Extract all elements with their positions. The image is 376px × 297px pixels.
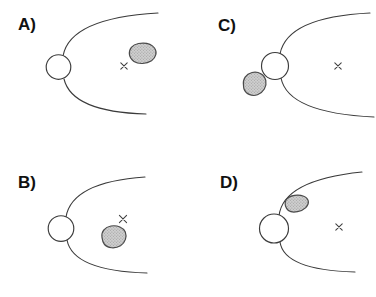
panel-a: A) [18, 13, 158, 114]
boundary-upper-curve [280, 13, 370, 54]
panel-label-b: B) [18, 173, 36, 192]
diagram-svg: A)B)C)D) [0, 0, 376, 297]
shaded-blob [102, 226, 126, 248]
shaded-blob [285, 195, 308, 212]
boundary-lower-curve [64, 79, 146, 114]
panel-d: D) [220, 172, 362, 272]
panel-c: C) [218, 13, 374, 117]
shaded-blob [129, 43, 156, 63]
x-marker [336, 224, 342, 230]
boundary-lower-curve [281, 78, 374, 117]
panel-b: B) [18, 173, 147, 273]
shaded-blob [243, 72, 266, 95]
boundary-lower-curve [280, 242, 355, 272]
panel-label-a: A) [18, 15, 36, 34]
x-marker [335, 63, 341, 69]
planet-circle [262, 53, 289, 80]
planet-circle [46, 55, 71, 80]
panel-label-c: C) [218, 16, 236, 35]
panel-label-d: D) [220, 173, 238, 192]
x-marker [119, 215, 126, 222]
x-marker [121, 63, 127, 69]
planet-circle [260, 214, 289, 243]
boundary-upper-curve [66, 177, 145, 217]
figure: A)B)C)D) [0, 0, 376, 297]
planet-circle [48, 216, 74, 242]
